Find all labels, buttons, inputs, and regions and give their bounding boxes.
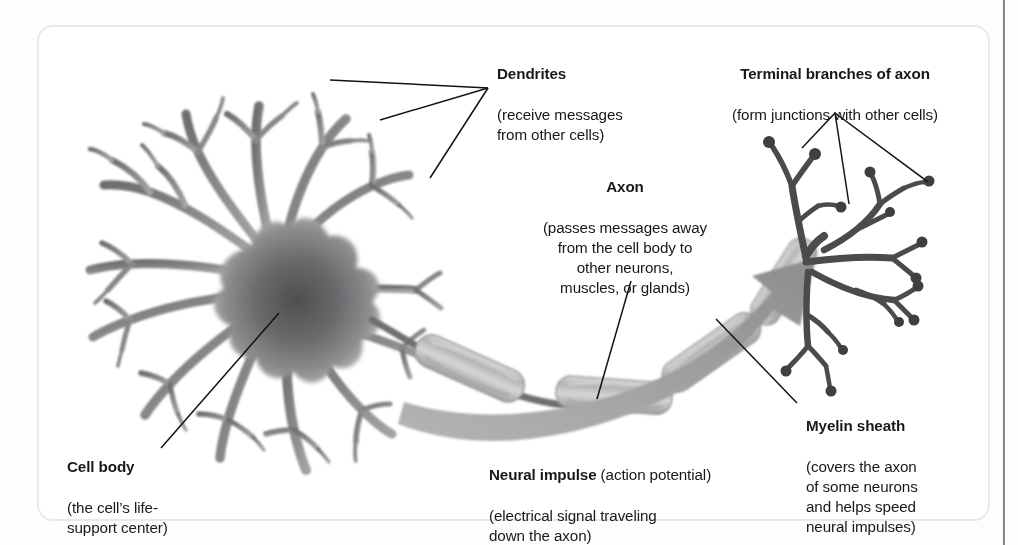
label-neural-impulse-body: (electrical signal traveling down the ax… <box>489 507 657 544</box>
page-gutter-line <box>1003 0 1005 545</box>
label-dendrites-body: (receive messages from other cells) <box>497 106 623 143</box>
leader-dendrites <box>330 80 488 178</box>
label-axon-heading: Axon <box>606 178 644 195</box>
label-cell-body-heading: Cell body <box>67 458 134 475</box>
label-myelin-sheath-body: (covers the axon of some neurons and hel… <box>806 458 918 536</box>
label-terminal-branches-heading: Terminal branches of axon <box>740 65 930 82</box>
label-cell-body-body: (the cell’s life- support center) <box>67 499 168 536</box>
label-terminal-branches: Terminal branches of axon (form junction… <box>680 44 990 125</box>
label-neural-impulse-heading: Neural impulse <box>489 466 596 483</box>
leader-terminal-branches <box>802 113 928 204</box>
label-dendrites-heading: Dendrites <box>497 65 566 82</box>
figure-root: Dendrites (receive messages from other c… <box>0 0 1018 545</box>
label-myelin-sheath: Myelin sheath (covers the axon of some n… <box>806 396 986 538</box>
label-terminal-branches-body: (form junctions with other cells) <box>732 106 938 123</box>
label-dendrites: Dendrites (receive messages from other c… <box>497 44 687 145</box>
label-axon: Axon (passes messages away from the cell… <box>500 157 750 299</box>
label-neural-impulse: Neural impulse (action potential) (elect… <box>489 445 809 545</box>
label-neural-impulse-heading-suffix: (action potential) <box>596 466 711 483</box>
label-cell-body: Cell body (the cell’s life- support cent… <box>67 437 267 538</box>
label-myelin-sheath-heading: Myelin sheath <box>806 417 905 434</box>
label-axon-body: (passes messages away from the cell body… <box>543 219 707 297</box>
